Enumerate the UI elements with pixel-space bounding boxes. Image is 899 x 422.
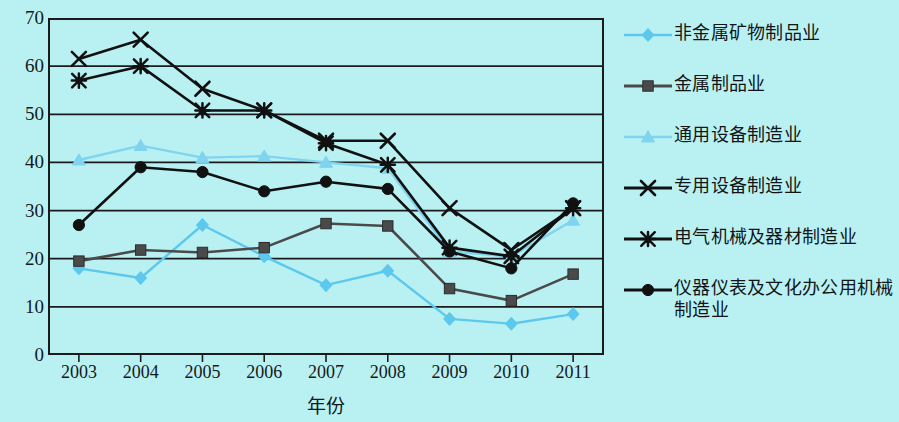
legend-label-4: 电气机械及器材制造业 bbox=[674, 226, 857, 248]
legend-marker-circle-icon bbox=[622, 279, 674, 301]
legend-label-2: 通用设备制造业 bbox=[674, 124, 802, 146]
legend-label-3: 专用设备制造业 bbox=[674, 175, 802, 197]
x-axis-tick-2010: 2010 bbox=[481, 362, 541, 383]
x-axis-title: 年份 bbox=[48, 391, 604, 418]
series-line-0 bbox=[79, 225, 573, 324]
series-1 bbox=[74, 218, 579, 305]
data-point-3-2 bbox=[195, 82, 209, 96]
data-point-0-8 bbox=[567, 308, 579, 321]
data-point-1-3 bbox=[259, 242, 269, 252]
data-point-1-7 bbox=[506, 295, 516, 305]
x-axis-tick-2006: 2006 bbox=[234, 362, 294, 383]
legend-label-5: 仪器仪表及文化办公用机械 制造业 bbox=[674, 277, 894, 321]
legend-item-5: 仪器仪表及文化办公用机械 制造业 bbox=[622, 277, 899, 328]
data-point-0-4 bbox=[320, 279, 332, 292]
data-point-1-4 bbox=[321, 218, 331, 228]
data-point-3-0 bbox=[72, 52, 86, 66]
data-point-1-8 bbox=[568, 269, 578, 279]
data-point-3-6 bbox=[443, 201, 457, 215]
data-point-5-3 bbox=[259, 186, 270, 197]
legend-item-0: 非金属矿物制品业 bbox=[622, 22, 899, 73]
data-point-4-0 bbox=[72, 73, 86, 87]
data-point-5-1 bbox=[135, 162, 146, 173]
x-axis-tick-2009: 2009 bbox=[420, 362, 480, 383]
x-axis-ticks bbox=[79, 355, 573, 362]
legend-label-0: 非金属矿物制品业 bbox=[674, 22, 820, 44]
data-point-1-6 bbox=[444, 283, 454, 293]
data-point-4-2 bbox=[195, 103, 209, 117]
data-point-0-7 bbox=[505, 317, 517, 330]
data-point-1-0 bbox=[74, 256, 84, 266]
legend-item-2: 通用设备制造业 bbox=[622, 124, 899, 175]
data-point-1-1 bbox=[135, 245, 145, 255]
x-axis-tick-2007: 2007 bbox=[296, 362, 356, 383]
legend-marker-triangle-icon bbox=[622, 126, 674, 148]
legend-label-1: 金属制品业 bbox=[674, 73, 766, 95]
data-point-2-1 bbox=[134, 139, 147, 150]
legend-item-1: 金属制品业 bbox=[622, 73, 899, 124]
line-chart: 010203040506070 200320042005200620072008… bbox=[0, 0, 620, 422]
legend-item-4: 电气机械及器材制造业 bbox=[622, 226, 899, 277]
chart-canvas bbox=[0, 0, 620, 422]
legend-marker-x-icon bbox=[622, 177, 674, 199]
x-axis-tick-2003: 2003 bbox=[49, 362, 109, 383]
series-0 bbox=[73, 219, 579, 331]
chart-page: 010203040506070 200320042005200620072008… bbox=[0, 0, 899, 422]
x-axis-tick-2008: 2008 bbox=[358, 362, 418, 383]
series-5 bbox=[73, 162, 578, 274]
data-point-1-2 bbox=[197, 247, 207, 257]
x-axis-tick-2011: 2011 bbox=[543, 362, 603, 383]
x-axis-tick-2004: 2004 bbox=[111, 362, 171, 383]
data-point-5-5 bbox=[382, 183, 393, 194]
data-point-5-2 bbox=[197, 166, 208, 177]
legend-marker-diamond-icon bbox=[622, 24, 674, 46]
data-point-3-1 bbox=[134, 33, 148, 47]
legend-marker-asterisk-icon bbox=[622, 228, 674, 250]
chart-legend: 非金属矿物制品业金属制品业通用设备制造业专用设备制造业电气机械及器材制造业仪器仪… bbox=[622, 22, 899, 328]
legend-marker-square-icon bbox=[622, 75, 674, 97]
data-point-5-4 bbox=[320, 176, 331, 187]
data-point-5-0 bbox=[73, 219, 84, 230]
data-point-4-6 bbox=[442, 241, 456, 255]
data-point-4-5 bbox=[381, 158, 395, 172]
data-point-4-1 bbox=[134, 59, 148, 73]
data-point-1-5 bbox=[383, 221, 393, 231]
legend-item-3: 专用设备制造业 bbox=[622, 175, 899, 226]
x-axis-tick-2005: 2005 bbox=[172, 362, 232, 383]
